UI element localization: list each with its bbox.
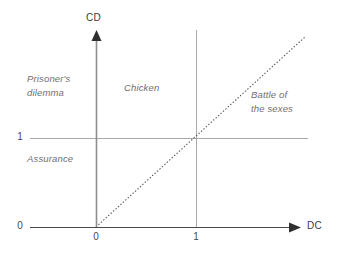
x-axis-tick-0: 0 [90, 231, 102, 242]
region-label-prisoners-dilemma-line1: Prisoner's [27, 72, 70, 86]
game-theory-quadrant-diagram: CD DC 1 0 0 1 Prisoner's dilemma Chicken… [0, 0, 337, 260]
y-axis-tick-1: 1 [14, 131, 26, 142]
x-axis-arrowhead-icon [289, 223, 301, 233]
region-label-chicken: Chicken [124, 81, 159, 95]
region-label-battle-of-the-sexes-line2: the sexes [251, 102, 293, 116]
region-label-battle-of-the-sexes: Battle of the sexes [251, 88, 293, 115]
region-label-assurance-line1: Assurance [27, 152, 73, 166]
region-label-prisoners-dilemma: Prisoner's dilemma [27, 72, 70, 99]
region-label-chicken-line1: Chicken [124, 81, 159, 95]
region-label-battle-of-the-sexes-line1: Battle of [251, 88, 293, 102]
y-axis-label: CD [86, 12, 101, 23]
region-label-assurance: Assurance [27, 152, 73, 166]
diagonal-dotted-line [96, 37, 305, 227]
y-axis-tick-0: 0 [14, 220, 26, 231]
x-axis-tick-1: 1 [190, 231, 202, 242]
y-axis-arrowhead-icon [92, 30, 102, 41]
plot-area [0, 0, 337, 260]
region-label-prisoners-dilemma-line2: dilemma [27, 86, 70, 100]
x-axis-label: DC [307, 220, 322, 231]
